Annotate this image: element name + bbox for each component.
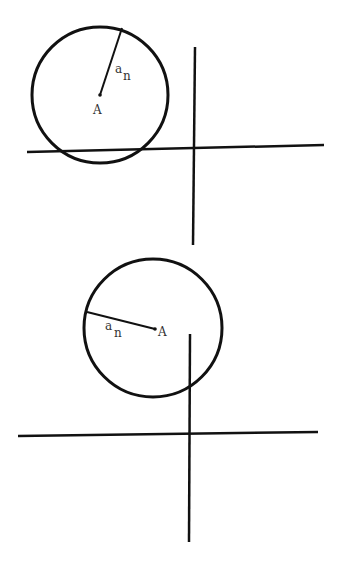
diagram-top: a n A — [27, 27, 324, 245]
horizontal-axis-bottom — [18, 432, 318, 436]
radius-label-main-top: a — [115, 62, 122, 76]
center-point-bottom — [153, 327, 157, 331]
radius-label-sub-top: n — [123, 69, 131, 83]
radius-label-sub-bottom: n — [114, 326, 122, 340]
horizontal-axis-top — [27, 145, 324, 152]
diagram-bottom: a n A — [18, 259, 318, 542]
center-label-top: A — [92, 103, 102, 117]
radius-label-main-bottom: a — [105, 319, 112, 333]
vertical-axis-bottom — [189, 334, 190, 542]
center-label-bottom: A — [157, 325, 167, 339]
diagram-canvas: a n A a n A — [0, 0, 337, 567]
vertical-axis-top — [193, 47, 195, 245]
center-point-top — [98, 93, 102, 97]
